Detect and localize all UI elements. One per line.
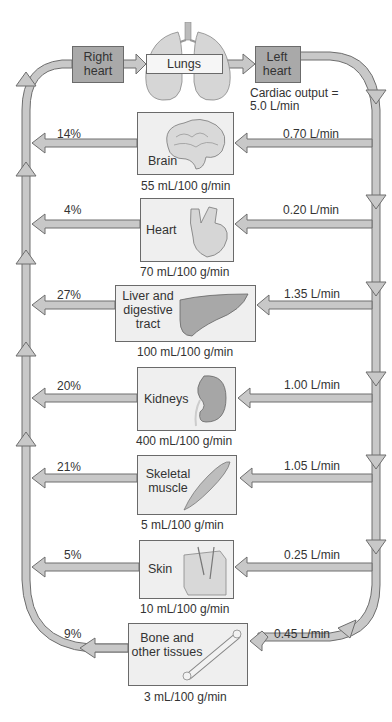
muscle-box: Skeletal muscle bbox=[137, 455, 237, 515]
perfusion-kidneys: 400 mL/100 g/min bbox=[136, 434, 232, 448]
organ-label-liver: Liver and digestive tract bbox=[120, 289, 176, 331]
percent-bone: 9% bbox=[64, 627, 81, 641]
flow-kidneys: 1.00 L/min bbox=[284, 378, 340, 392]
heart-box: Heart bbox=[140, 198, 234, 262]
left-heart-label: Left heart bbox=[258, 50, 296, 78]
percent-heart: 4% bbox=[64, 203, 81, 217]
lungs-label: Lungs bbox=[147, 57, 221, 71]
heart-icon bbox=[185, 203, 231, 259]
flow-heart: 0.20 L/min bbox=[283, 203, 339, 217]
flow-skin: 0.25 L/min bbox=[284, 548, 340, 562]
flow-brain: 0.70 L/min bbox=[283, 127, 339, 141]
perfusion-skin: 10 mL/100 g/min bbox=[140, 602, 229, 616]
perfusion-heart: 70 mL/100 g/min bbox=[140, 265, 229, 279]
kidneys-box: Kidneys bbox=[137, 367, 236, 431]
organ-label-kidneys: Kidneys bbox=[144, 392, 188, 406]
liver-box: Liver and digestive tract bbox=[115, 285, 256, 342]
flow-liver: 1.35 L/min bbox=[284, 287, 340, 301]
percent-liver: 27% bbox=[57, 288, 81, 302]
kidney-icon bbox=[190, 372, 230, 428]
skin-box: Skin bbox=[139, 540, 234, 599]
right-heart-box: Right heart bbox=[72, 46, 124, 83]
perfusion-brain: 55 mL/100 g/min bbox=[141, 179, 230, 193]
skin-icon bbox=[180, 545, 230, 597]
organ-label-brain: Brain bbox=[148, 154, 177, 168]
right-heart-label: Right heart bbox=[77, 50, 119, 78]
organ-label-muscle: Skeletal muscle bbox=[142, 467, 194, 495]
percent-kidneys: 20% bbox=[57, 379, 81, 393]
cardiac-output-label: Cardiac output = bbox=[250, 86, 338, 100]
percent-skin: 5% bbox=[64, 548, 81, 562]
brain-box: Brain bbox=[137, 112, 234, 175]
percent-muscle: 21% bbox=[57, 460, 81, 474]
perfusion-bone: 3 mL/100 g/min bbox=[144, 690, 227, 704]
organ-label-skin: Skin bbox=[148, 562, 172, 576]
bone-box: Bone and other tissues bbox=[128, 623, 248, 686]
perfusion-liver: 100 mL/100 g/min bbox=[137, 345, 233, 359]
lungs-box: Lungs bbox=[146, 54, 223, 74]
percent-brain: 14% bbox=[57, 127, 81, 141]
liver-icon bbox=[176, 290, 252, 338]
flow-bone: 0.45 L/min bbox=[274, 627, 330, 641]
organ-label-bone: Bone and other tissues bbox=[131, 631, 203, 659]
perfusion-muscle: 5 mL/100 g/min bbox=[141, 518, 224, 532]
organ-label-heart: Heart bbox=[146, 223, 177, 237]
flow-muscle: 1.05 L/min bbox=[284, 459, 340, 473]
left-heart-box: Left heart bbox=[255, 46, 301, 83]
cardiac-output-value: 5.0 L/min bbox=[250, 99, 299, 113]
